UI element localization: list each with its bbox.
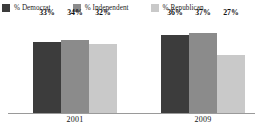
bar-2001-republican[interactable] xyxy=(89,44,117,113)
bar-2001-independent[interactable] xyxy=(61,40,89,113)
bar-value-2001-republican: 32% xyxy=(95,8,111,17)
bar-value-2001-democrat: 33% xyxy=(39,8,55,17)
bar-group-2009: 36% 37% 27% xyxy=(161,18,245,113)
bar-wrap-2009-democrat: 36% xyxy=(161,18,189,113)
x-axis-label-2009: 2009 xyxy=(161,114,245,126)
x-axis-labels: 2001 2009 xyxy=(0,114,263,128)
bar-group-2001-bars: 33% 34% 32% xyxy=(33,18,117,113)
bar-wrap-2001-republican: 32% xyxy=(89,18,117,113)
bar-2001-democrat[interactable] xyxy=(33,42,61,113)
bar-group-2009-bars: 36% 37% 27% xyxy=(161,18,245,113)
bar-value-2009-democrat: 36% xyxy=(167,8,183,17)
bar-group-2001: 33% 34% 32% xyxy=(33,18,117,113)
bar-value-2009-republican: 27% xyxy=(223,8,239,17)
plot-area: 33% 34% 32% 36% 37% xyxy=(0,18,263,114)
bar-2009-democrat[interactable] xyxy=(161,35,189,113)
bar-wrap-2009-republican: 27% xyxy=(217,18,245,113)
bar-wrap-2001-democrat: 33% xyxy=(33,18,61,113)
bar-wrap-2001-independent: 34% xyxy=(61,18,89,113)
bar-value-2001-independent: 34% xyxy=(67,8,83,17)
bar-chart: % Democrat % Independent % Republican 33… xyxy=(0,0,263,138)
bar-2009-republican[interactable] xyxy=(217,55,245,113)
legend-swatch-democrat xyxy=(2,4,10,12)
bar-2009-independent[interactable] xyxy=(189,33,217,113)
x-axis-label-2001: 2001 xyxy=(33,114,117,126)
bar-value-2009-independent: 37% xyxy=(195,8,211,17)
legend-swatch-republican xyxy=(151,4,159,12)
bar-wrap-2009-independent: 37% xyxy=(189,18,217,113)
